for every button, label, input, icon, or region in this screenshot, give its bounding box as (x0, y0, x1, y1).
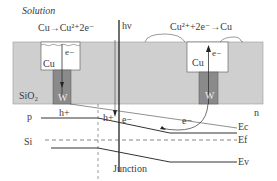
ec-label: Ec (238, 122, 249, 132)
light-label: hν (122, 21, 132, 31)
hole-left-label: h+ (59, 108, 70, 118)
right-cu-label: Cu (192, 58, 204, 68)
si-label: Si (24, 137, 32, 147)
pn-junction-diagram: Solution Cu→Cu²⁺2e⁻ hν Cu²⁺+2e⁻→Cu Cu e−… (0, 0, 277, 181)
left-well-electron: e− (65, 47, 74, 57)
deposit-bump-left (145, 34, 185, 42)
p-label: p (27, 112, 32, 122)
conduction-band (41, 118, 237, 133)
valence-band (51, 148, 237, 162)
cathode-reaction: Cu²⁺+2e⁻→Cu (170, 22, 232, 32)
electron-junction-label: e− (122, 115, 132, 125)
n-label: n (254, 108, 259, 118)
left-cu-label: Cu (43, 59, 55, 69)
hole-junction-label: h+ (103, 113, 114, 123)
left-plug-label: W (58, 93, 67, 103)
electron-right-label: e− (182, 116, 192, 126)
ef-label: Ef (238, 135, 247, 145)
ev-label: Ev (238, 157, 249, 167)
right-plug-label: W (205, 91, 214, 101)
right-well-electron: e− (212, 48, 221, 58)
anode-reaction: Cu→Cu²⁺2e⁻ (38, 23, 94, 33)
junction-label: Junction (113, 164, 147, 174)
oxide-label: SiO₂ (19, 91, 38, 101)
electron-curve-arrow-icon (160, 126, 166, 130)
solution-label: Solution (22, 6, 55, 16)
hole-path (70, 104, 237, 128)
deposit-bump-right (220, 37, 243, 42)
